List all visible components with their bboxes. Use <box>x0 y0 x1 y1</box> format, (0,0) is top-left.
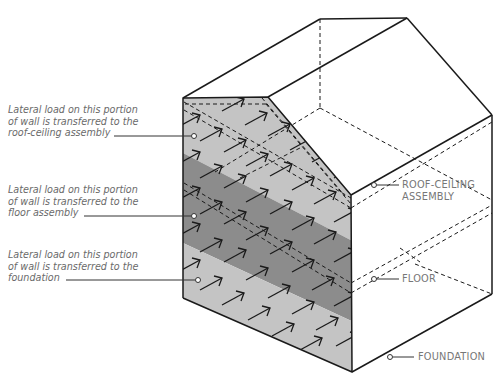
label-floor: FLOOR <box>402 273 436 285</box>
label-foundation: FOUNDATION <box>418 351 485 363</box>
label-floor-load: Lateral load on this portion of wall is … <box>8 184 138 219</box>
label-roof-ceiling-assembly: ROOF-CEILING ASSEMBLY <box>402 179 475 203</box>
label-foundation-load: Lateral load on this portion of wall is … <box>8 249 138 284</box>
label-roof-load: Lateral load on this portion of wall is … <box>8 104 138 139</box>
right-leaders <box>372 183 415 360</box>
